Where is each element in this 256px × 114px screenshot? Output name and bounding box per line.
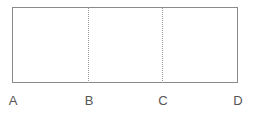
divider-b bbox=[88, 7, 89, 83]
label-d: D bbox=[233, 94, 242, 108]
label-a: A bbox=[9, 94, 18, 108]
label-c: C bbox=[158, 94, 167, 108]
label-b: B bbox=[85, 94, 94, 108]
divider-c bbox=[162, 7, 163, 83]
outer-rectangle bbox=[12, 7, 238, 83]
